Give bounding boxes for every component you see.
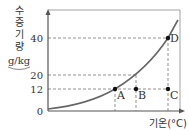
label-a: A <box>116 89 126 102</box>
label-c: C <box>170 89 178 102</box>
y-axis-unit: g/kg <box>8 55 31 66</box>
tick-12: 12 <box>30 84 43 95</box>
x-axis-arrow-icon <box>179 109 185 114</box>
label-d: D <box>170 32 179 45</box>
x-axis-title: 기온(°C) <box>149 118 187 129</box>
label-b: B <box>138 89 146 102</box>
tick-20: 20 <box>30 70 43 81</box>
svg-text:증: 증 <box>15 17 24 28</box>
tick-40: 40 <box>30 33 43 44</box>
svg-text:량: 량 <box>15 41 24 52</box>
svg-text:수: 수 <box>15 5 24 16</box>
saturation-vapor-chart: A B C D 40 20 12 0 수 증 기 량 g/kg 기온(°C) <box>0 0 189 131</box>
tick-0: 0 <box>37 106 43 117</box>
y-axis-title: 수 증 기 량 <box>15 5 24 52</box>
reference-lines <box>48 38 168 111</box>
unit-brace <box>8 67 30 70</box>
svg-text:기: 기 <box>15 29 24 40</box>
saturation-curve <box>48 20 178 109</box>
